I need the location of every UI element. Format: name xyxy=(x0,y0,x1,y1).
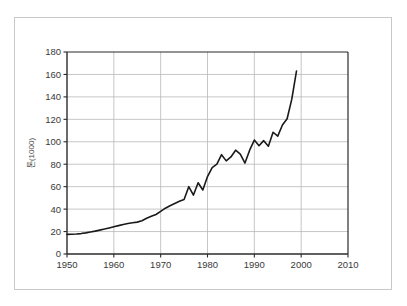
data-line xyxy=(67,71,296,234)
y-axis: 020406080100120140160180 xyxy=(45,46,67,259)
x-tick-label: 1970 xyxy=(150,259,171,270)
y-tick-label: 0 xyxy=(56,248,61,259)
x-tick-label: 1950 xyxy=(56,259,77,270)
y-axis-label: 톤(1000) xyxy=(27,138,36,168)
gridlines xyxy=(67,52,348,254)
x-tick-label: 2000 xyxy=(291,259,312,270)
y-tick-label: 120 xyxy=(45,114,61,125)
y-tick-label: 180 xyxy=(45,46,61,57)
y-tick-label: 60 xyxy=(50,181,61,192)
y-tick-label: 100 xyxy=(45,136,61,147)
y-tick-label: 80 xyxy=(50,159,61,170)
data-series-group xyxy=(67,71,296,234)
x-tick-label: 1990 xyxy=(244,259,265,270)
chart-figure: 0204060801001201401601801950196019701980… xyxy=(0,0,407,306)
x-tick-label: 1960 xyxy=(103,259,124,270)
y-tick-label: 20 xyxy=(50,226,61,237)
y-tick-label: 40 xyxy=(50,204,61,215)
y-tick-label: 160 xyxy=(45,69,61,80)
x-axis: 1950196019701980199020002010 xyxy=(56,254,358,270)
y-tick-label: 140 xyxy=(45,91,61,102)
x-tick-label: 2010 xyxy=(337,259,358,270)
line-chart: 0204060801001201401601801950196019701980… xyxy=(0,0,407,306)
x-tick-label: 1980 xyxy=(197,259,218,270)
